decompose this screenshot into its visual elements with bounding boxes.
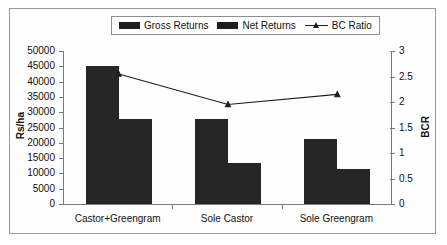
chart-legend: Gross Returns Net Returns BC Ratio: [111, 16, 380, 35]
net-returns-swatch-icon: [217, 22, 238, 29]
bc-ratio-line-marker-icon: [305, 21, 328, 30]
x-axis-tick: [282, 204, 283, 209]
y-axis-right-tick-label: 3: [399, 46, 439, 56]
x-axis-category-label: Sole Greengram: [282, 213, 391, 224]
y-axis-left-tick-label: 40000: [9, 77, 55, 87]
bc-ratio-polyline: [119, 74, 338, 105]
y-axis-left-tick-label: 5000: [9, 184, 55, 194]
legend-label-bc-ratio: BC Ratio: [332, 21, 372, 31]
y-axis-right-tick: [390, 204, 395, 205]
legend-label-net-returns: Net Returns: [242, 21, 295, 31]
y-axis-right-tick-label: 0.5: [399, 174, 439, 184]
y-axis-left-tick-label: 50000: [9, 46, 55, 56]
y-axis-left-tick: [59, 204, 64, 205]
x-axis-baseline: [63, 204, 392, 205]
plot-area: [64, 51, 392, 204]
y-axis-right-tick-label: 1: [399, 148, 439, 158]
x-axis-category-label: Castor+Greengram: [63, 213, 172, 224]
bc-ratio-triangle-marker-icon: [115, 70, 122, 77]
legend-label-gross-returns: Gross Returns: [144, 21, 208, 31]
bc-ratio-line-series: [64, 51, 392, 204]
y-axis-left-tick-label: 10000: [9, 168, 55, 178]
y-axis-left-tick-label: 35000: [9, 92, 55, 102]
y-axis-right-tick-label: 2.5: [399, 72, 439, 82]
bc-ratio-triangle-marker-icon: [334, 90, 341, 97]
y-axis-left-tick-label: 25000: [9, 123, 55, 133]
y-axis-left-tick-label: 20000: [9, 138, 55, 148]
chart-frame: Gross Returns Net Returns BC Ratio Rs/ha…: [9, 8, 436, 234]
legend-item-bc-ratio: BC Ratio: [305, 21, 372, 31]
y-axis-left-tick-label: 45000: [9, 61, 55, 71]
y-axis-left-tick-label: 15000: [9, 153, 55, 163]
y-axis-left-tick-label: 0: [9, 199, 55, 209]
y-axis-right-tick-label: 1.5: [399, 123, 439, 133]
x-axis-category-label: Sole Castor: [172, 213, 281, 224]
y-axis-right-tick-label: 0: [399, 199, 439, 209]
legend-item-gross-returns: Gross Returns: [119, 21, 208, 31]
legend-item-net-returns: Net Returns: [217, 21, 295, 31]
y-axis-left-tick-label: 30000: [9, 107, 55, 117]
y-axis-right-tick-label: 2: [399, 97, 439, 107]
gross-returns-swatch-icon: [119, 22, 140, 29]
x-axis-tick: [172, 204, 173, 209]
